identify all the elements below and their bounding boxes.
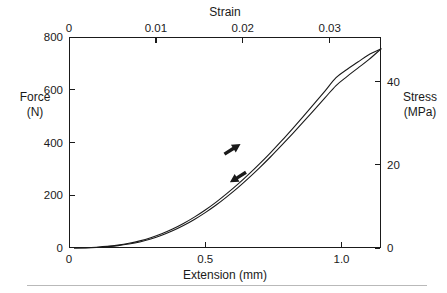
loading-arrow [222, 140, 243, 158]
x2-tick-label-0: 0 [66, 22, 72, 34]
y2-tick-2 [375, 247, 380, 248]
hysteresis-curves [74, 49, 381, 248]
x2-tick-label-3: 0.03 [319, 22, 341, 34]
y2-axis-title-line2: (MPa) [392, 105, 447, 120]
y-tick-label-4: 0 [27, 242, 63, 254]
curve-layer [69, 37, 381, 248]
y2-axis-title-line1: Stress [392, 90, 447, 105]
x-axis-title: Extension (mm) [183, 268, 267, 283]
loading-arrow-glyph [222, 140, 243, 158]
x2-tick-3 [329, 38, 330, 43]
y-tick-label-0: 800 [27, 31, 63, 43]
y2-tick-label-0: 40 [387, 76, 421, 88]
x2-tick-1 [155, 38, 156, 43]
y-tick-3 [70, 195, 75, 196]
x2-tick-2 [242, 38, 243, 43]
figure-container: 80060040020004020000.010.020.0300.51.0 F… [0, 0, 447, 293]
y-tick-2 [70, 142, 75, 143]
x2-tick-label-1: 0.01 [145, 22, 167, 34]
y-axis-title-line1: Force [6, 90, 64, 105]
y-tick-label-2: 400 [27, 137, 63, 149]
x-tick-label-2: 1.0 [333, 253, 349, 265]
y2-tick-label-1: 20 [387, 159, 421, 171]
x-tick-label-1: 0.5 [197, 253, 213, 265]
x-tick-1 [205, 242, 206, 247]
y2-tick-label-2: 0 [387, 242, 421, 254]
y2-tick-1 [375, 164, 380, 165]
y2-axis-title: Stress (MPa) [392, 90, 447, 119]
curve-loading [74, 49, 381, 248]
y-tick-1 [70, 89, 75, 90]
y-axis-title: Force (N) [6, 90, 64, 119]
bottom-separator-rule [27, 285, 427, 286]
direction-arrows [222, 140, 248, 186]
y2-tick-0 [375, 81, 380, 82]
x2-axis-title: Strain [209, 5, 240, 20]
y-axis-title-line2: (N) [6, 105, 64, 120]
y-tick-label-3: 200 [27, 189, 63, 201]
x-tick-label-0: 0 [66, 253, 72, 265]
x2-tick-label-2: 0.02 [232, 22, 254, 34]
x-tick-2 [341, 242, 342, 247]
